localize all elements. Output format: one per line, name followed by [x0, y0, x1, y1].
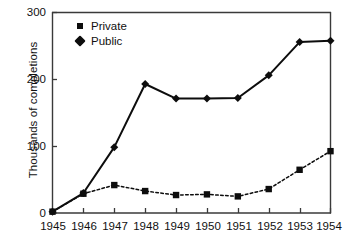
legend-item-private: Private — [74, 19, 127, 33]
legend-item-public: Public — [74, 34, 127, 48]
data-point-marker — [296, 167, 302, 173]
data-point-marker — [172, 95, 180, 103]
data-point-marker — [204, 191, 210, 197]
legend-label: Public — [88, 35, 122, 47]
diamond-marker-icon — [74, 34, 88, 48]
x-axis-ticks — [53, 208, 331, 213]
data-point-marker — [327, 37, 335, 45]
data-point-marker — [142, 188, 148, 194]
square-marker-icon — [74, 19, 88, 33]
data-point-marker — [173, 192, 179, 198]
data-point-marker — [111, 182, 117, 188]
series-public — [49, 37, 335, 216]
series-line — [53, 151, 331, 212]
legend-label: Private — [88, 20, 127, 32]
data-point-marker — [327, 148, 333, 154]
data-point-marker — [266, 186, 272, 192]
series-line — [53, 41, 331, 212]
line-chart: Thousands of completions 300 200 100 0 1… — [0, 0, 348, 242]
plot-area — [0, 0, 348, 242]
chart-legend: Private Public — [74, 19, 127, 49]
data-point-marker — [141, 80, 149, 88]
data-point-marker — [235, 193, 241, 199]
data-point-marker — [203, 95, 211, 103]
